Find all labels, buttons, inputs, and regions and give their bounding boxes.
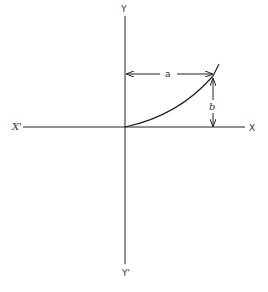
y-top-label: Y [120, 4, 127, 14]
x-right-label: X [249, 123, 255, 133]
x-left-label: X' [11, 121, 22, 132]
y-bottom-label: Y' [121, 268, 130, 278]
curve [125, 64, 219, 127]
diagram-canvas: a b Y Y' X' X [0, 0, 268, 292]
dimension-a-label: a [165, 69, 171, 79]
dimension-b-label: b [209, 101, 215, 112]
